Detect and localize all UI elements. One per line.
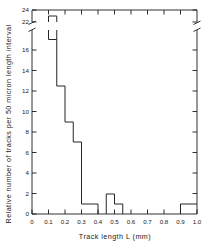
- y-tick-labels: 0 2 4 6 8 10 12 14 16 22 24: [22, 6, 29, 217]
- histogram-top-segment: [49, 16, 57, 22]
- y-ticks-left: [32, 10, 37, 214]
- x-tick-label-0.1: 0.1: [44, 218, 53, 225]
- x-tick-label-0.3: 0.3: [77, 218, 86, 225]
- histogram-step-path: [49, 30, 198, 214]
- histogram-top-cap-path: [49, 16, 57, 22]
- y-tick-label-10: 10: [22, 108, 29, 115]
- y-tick-label-4: 4: [26, 169, 30, 176]
- x-ticks-bottom: [32, 210, 197, 215]
- x-tick-label-0.5: 0.5: [110, 218, 119, 225]
- x-axis-label: Track length L (mm): [79, 232, 151, 241]
- x-tick-label-0.2: 0.2: [61, 218, 70, 225]
- axis-break-marks: [29, 21, 201, 32]
- y-tick-label-8: 8: [26, 128, 30, 135]
- figure: 0 2 4 6 8 10 12 14 16 22 24 0 0.1 0.2 0.…: [0, 0, 208, 248]
- x-tick-label-0.4: 0.4: [94, 218, 103, 225]
- x-tick-labels: 0 0.1 0.2 0.3 0.4 0.5 0.6 0.7 0.8 0.9 1.…: [30, 218, 202, 225]
- x-tick-label-0: 0: [30, 218, 34, 225]
- x-ticks-top: [49, 10, 181, 15]
- y-tick-label-22: 22: [22, 18, 29, 25]
- x-tick-label-0.8: 0.8: [160, 218, 169, 225]
- histogram-chart: 0 2 4 6 8 10 12 14 16 22 24 0 0.1 0.2 0.…: [0, 0, 208, 248]
- y-ticks-right: [193, 10, 198, 194]
- y-tick-label-16: 16: [22, 46, 29, 53]
- y-tick-label-2: 2: [26, 190, 30, 197]
- x-tick-label-0.6: 0.6: [127, 218, 136, 225]
- y-tick-label-24: 24: [22, 6, 29, 13]
- y-tick-label-14: 14: [22, 67, 29, 74]
- x-tick-label-0.7: 0.7: [143, 218, 152, 225]
- x-tick-label-1.0: 1.0: [193, 218, 202, 225]
- y-tick-label-0: 0: [26, 210, 30, 217]
- y-tick-label-6: 6: [26, 149, 30, 156]
- x-tick-label-0.9: 0.9: [176, 218, 185, 225]
- y-axis-label: Relative number of tracks per 50 micron …: [4, 25, 13, 224]
- histogram-trace: [49, 30, 198, 214]
- y-tick-label-12: 12: [22, 87, 29, 94]
